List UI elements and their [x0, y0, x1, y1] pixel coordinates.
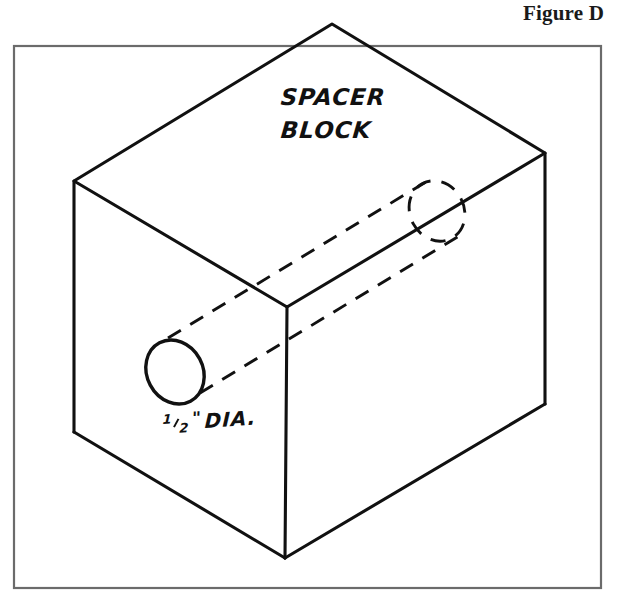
hole-opening-ellipse: [135, 330, 215, 415]
hole-hidden-lines: [168, 171, 475, 393]
fraction-denominator: 2: [179, 420, 190, 436]
hole-axis-lower-line: [200, 233, 464, 393]
cube-top-face: [74, 24, 545, 307]
cube-edge-front-vertical: [285, 307, 287, 558]
cube-edge-bottom-right: [285, 404, 545, 558]
label-part-name-line2: BLOCK: [280, 117, 373, 143]
fraction-numerator: 1: [162, 411, 173, 427]
inch-mark: ": [192, 407, 203, 428]
hole-exit-ellipse: [399, 171, 476, 251]
label-part-name-line1: SPACER: [280, 84, 387, 110]
hole-axis-upper-line: [168, 177, 434, 338]
fraction-one-half: 1 2: [162, 415, 190, 432]
figure-page: Figure D Isometric drawing of a spacer b…: [0, 0, 618, 601]
fraction-bar: [173, 419, 179, 428]
cube-edge-bottom-left: [74, 432, 285, 558]
diameter-text: DIA.: [204, 405, 257, 433]
